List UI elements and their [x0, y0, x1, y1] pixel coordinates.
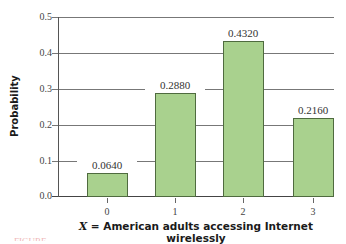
y-tick-0.3: 0.3: [0, 83, 52, 94]
bar-1: [155, 93, 196, 197]
bar-value-label-2: 0.4320: [213, 27, 273, 39]
y-tick-0.1: 0.1: [0, 155, 52, 166]
y-tick-0.4: 0.4: [0, 47, 52, 58]
bar-0: [87, 173, 128, 197]
bar-value-label-3: 0.2160: [283, 104, 343, 116]
x-tick-mark: [313, 198, 314, 203]
x-tick-3: 3: [303, 206, 323, 217]
x-tick-2: 2: [233, 206, 253, 217]
bar-value-label-1: 0.2880: [145, 79, 205, 91]
y-axis-line: [58, 17, 59, 197]
y-tick-0.0: 0.0: [0, 190, 52, 201]
y-tick-0.2: 0.2: [0, 119, 52, 130]
x-tick-mark: [107, 198, 108, 203]
y-tick-0.5: 0.5: [0, 11, 52, 22]
gridline: [52, 53, 334, 54]
figure-caption-fragment: FIGURE: [14, 236, 334, 241]
bar-value-label-0: 0.0640: [77, 159, 137, 171]
x-tick-mark: [243, 198, 244, 203]
bar-3: [293, 118, 334, 197]
bar-2: [223, 41, 264, 197]
x-axis-variable: X: [79, 220, 87, 232]
x-tick-1: 1: [165, 206, 185, 217]
gridline: [52, 17, 334, 18]
x-tick-0: 0: [97, 206, 117, 217]
x-tick-mark: [175, 198, 176, 203]
